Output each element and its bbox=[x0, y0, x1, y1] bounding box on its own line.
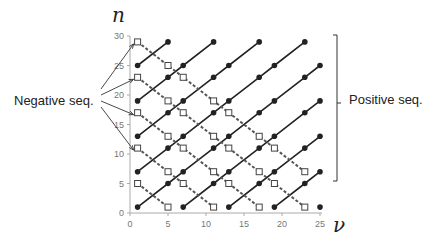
negative-seq-square bbox=[135, 110, 141, 116]
y-tick-label: 10 bbox=[114, 149, 124, 159]
positive-seq-dot bbox=[211, 39, 217, 45]
annotation-arrow bbox=[101, 107, 134, 150]
negative-seq-square bbox=[211, 169, 217, 175]
positive-seq-dot bbox=[135, 169, 141, 175]
negative-seq-square bbox=[256, 133, 262, 139]
positive-seq-dot bbox=[180, 134, 186, 140]
positive-seq-dot bbox=[272, 134, 278, 140]
positive-seq-dot bbox=[256, 75, 262, 81]
positive-seq-dot bbox=[180, 204, 186, 210]
negative-seq-square bbox=[226, 145, 232, 151]
positive-seq-dot bbox=[256, 39, 262, 45]
positive-seq-dot bbox=[272, 98, 278, 104]
negative-seq-square bbox=[135, 145, 141, 151]
negative-seq-square bbox=[271, 181, 277, 187]
positive-seq-dot bbox=[272, 204, 278, 210]
annotation-arrow bbox=[101, 44, 134, 89]
positive-seq-dot bbox=[165, 181, 171, 187]
y-tick-label: 5 bbox=[119, 179, 124, 189]
negative-seq-square bbox=[180, 181, 186, 187]
positive-seq-dot bbox=[302, 110, 308, 116]
positive-seq-dot bbox=[165, 110, 171, 116]
positive-seq-dot bbox=[226, 98, 232, 104]
negative-seq-square bbox=[165, 133, 171, 139]
positive-seq-dot bbox=[211, 110, 217, 116]
y-tick-label: 20 bbox=[114, 90, 124, 100]
positive-seq-dot bbox=[211, 181, 217, 187]
positive-seq-dot bbox=[302, 145, 308, 151]
positive-seq-dot bbox=[272, 169, 278, 175]
positive-seq-line bbox=[183, 101, 320, 207]
x-tick-label: 10 bbox=[201, 219, 211, 229]
negative-seq-square bbox=[256, 204, 262, 210]
positive-seq-dot bbox=[135, 98, 141, 104]
positive-seq-dot bbox=[256, 145, 262, 151]
y-tick-label: 15 bbox=[114, 120, 124, 130]
positive-seq-dot bbox=[317, 134, 323, 140]
negative-seq-square bbox=[211, 133, 217, 139]
negative-seq-square bbox=[226, 110, 232, 116]
positive-seq-dot bbox=[226, 204, 232, 210]
positive-seq-dot bbox=[272, 63, 278, 69]
positive-seq-dot bbox=[165, 145, 171, 151]
positive-seq-dot bbox=[165, 39, 171, 45]
positive-seq-dot bbox=[256, 110, 262, 116]
positive-seq-dot bbox=[135, 204, 141, 210]
negative-seq-square bbox=[135, 74, 141, 80]
positive-seq-dot bbox=[226, 134, 232, 140]
negative-seq-square bbox=[256, 169, 262, 175]
negative-seq-square bbox=[180, 110, 186, 116]
negative-seq-square bbox=[226, 181, 232, 187]
positive-seq-bracket bbox=[333, 35, 341, 181]
positive-seq-dot bbox=[317, 63, 323, 69]
negative-seq-square bbox=[271, 145, 277, 151]
negative-seq-square bbox=[165, 63, 171, 69]
negative-seq-square bbox=[165, 98, 171, 104]
positive-seq-dot bbox=[317, 169, 323, 175]
positive-seq-dot bbox=[180, 63, 186, 69]
positive-seq-dot bbox=[211, 145, 217, 151]
positive-seq-dot bbox=[317, 204, 323, 210]
negative-seq-square bbox=[211, 204, 217, 210]
positive-seq-dot bbox=[256, 181, 262, 187]
x-tick-label: 20 bbox=[277, 219, 287, 229]
y-tick-label: 30 bbox=[114, 31, 124, 41]
negative-seq-square bbox=[135, 181, 141, 187]
negative-seq-square bbox=[180, 145, 186, 151]
positive-seq-dot bbox=[226, 169, 232, 175]
negative-seq-square bbox=[302, 204, 308, 210]
negative-seq-label: Negative seq. bbox=[14, 93, 94, 108]
positive-seq-dot bbox=[211, 75, 217, 81]
x-tick-label: 15 bbox=[239, 219, 249, 229]
positive-seq-dot bbox=[135, 63, 141, 69]
x-tick-label: 5 bbox=[165, 219, 170, 229]
positive-seq-dot bbox=[165, 75, 171, 81]
x-tick-label: 25 bbox=[315, 219, 325, 229]
positive-seq-dot bbox=[135, 134, 141, 140]
annotation-arrow bbox=[101, 101, 134, 115]
negative-seq-square bbox=[135, 39, 141, 45]
negative-seq-square bbox=[180, 74, 186, 80]
positive-seq-dot bbox=[317, 98, 323, 104]
positive-seq-label: Positive seq. bbox=[349, 92, 423, 107]
negative-seq-square bbox=[302, 169, 308, 175]
positive-seq-dot bbox=[180, 98, 186, 104]
positive-seq-dot bbox=[302, 75, 308, 81]
lattice-diagram: 0510152025051015202530 bbox=[0, 0, 428, 241]
x-axis-label: ν bbox=[333, 213, 345, 237]
positive-seq-dot bbox=[302, 181, 308, 187]
negative-seq-square bbox=[165, 204, 171, 210]
positive-seq-dot bbox=[180, 169, 186, 175]
negative-seq-square bbox=[165, 169, 171, 175]
positive-seq-dot bbox=[226, 63, 232, 69]
negative-seq-square bbox=[211, 98, 217, 104]
x-tick-label: 0 bbox=[127, 219, 132, 229]
y-axis-label: n bbox=[112, 3, 125, 27]
y-tick-label: 0 bbox=[119, 208, 124, 218]
positive-seq-dot bbox=[302, 39, 308, 45]
